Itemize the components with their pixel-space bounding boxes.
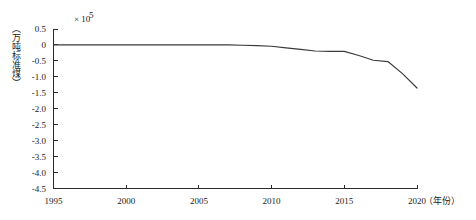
y-axis-tick-label: 0: [42, 40, 47, 50]
y-axis-tick-label: -4.0: [32, 168, 47, 178]
line-chart-canvas: 0.50-0.5-1.0-1.5-2.0-2.5-3.0-3.5-4.0-4.5…: [0, 0, 476, 220]
y-axis-tick-label: -1.5: [32, 88, 47, 98]
y-axis-tick-label: -3.5: [32, 152, 47, 162]
y-axis-tick-label: -3.0: [32, 136, 47, 146]
y-axis-tick-label: -0.5: [32, 56, 47, 66]
x-axis-tick-label: 2015: [335, 196, 354, 206]
x-axis-title: （年份）: [424, 195, 460, 206]
y-axis-tick-label: -2.0: [32, 104, 47, 114]
y-axis-tick-label: -1.0: [32, 72, 47, 82]
y-axis-multiplier-exponent: 5: [89, 10, 94, 20]
x-axis-tick-label: 2010: [263, 196, 282, 206]
data-series-line: [54, 45, 418, 88]
y-axis-tick-labels: 0.50-0.5-1.0-1.5-2.0-2.5-3.0-3.5-4.0-4.5: [32, 24, 47, 194]
y-axis-tick-label: -4.5: [32, 184, 47, 194]
x-axis-tick-label: 1995: [45, 196, 64, 206]
y-axis-tick-label: 0.5: [35, 24, 47, 34]
y-axis-tick-label: -2.5: [32, 120, 47, 130]
x-axis-tick-labels: 199520002005201020152020: [45, 196, 427, 206]
chart-figure: （万吨标准煤） 0.50-0.5-1.0-1.5-2.0-2.5-3.0-3.5…: [0, 0, 476, 220]
x-axis-tick-marks: [54, 185, 418, 189]
x-axis-tick-label: 2000: [117, 196, 136, 206]
x-axis-tick-label: 2005: [190, 196, 209, 206]
y-axis-tick-marks: [54, 29, 58, 189]
